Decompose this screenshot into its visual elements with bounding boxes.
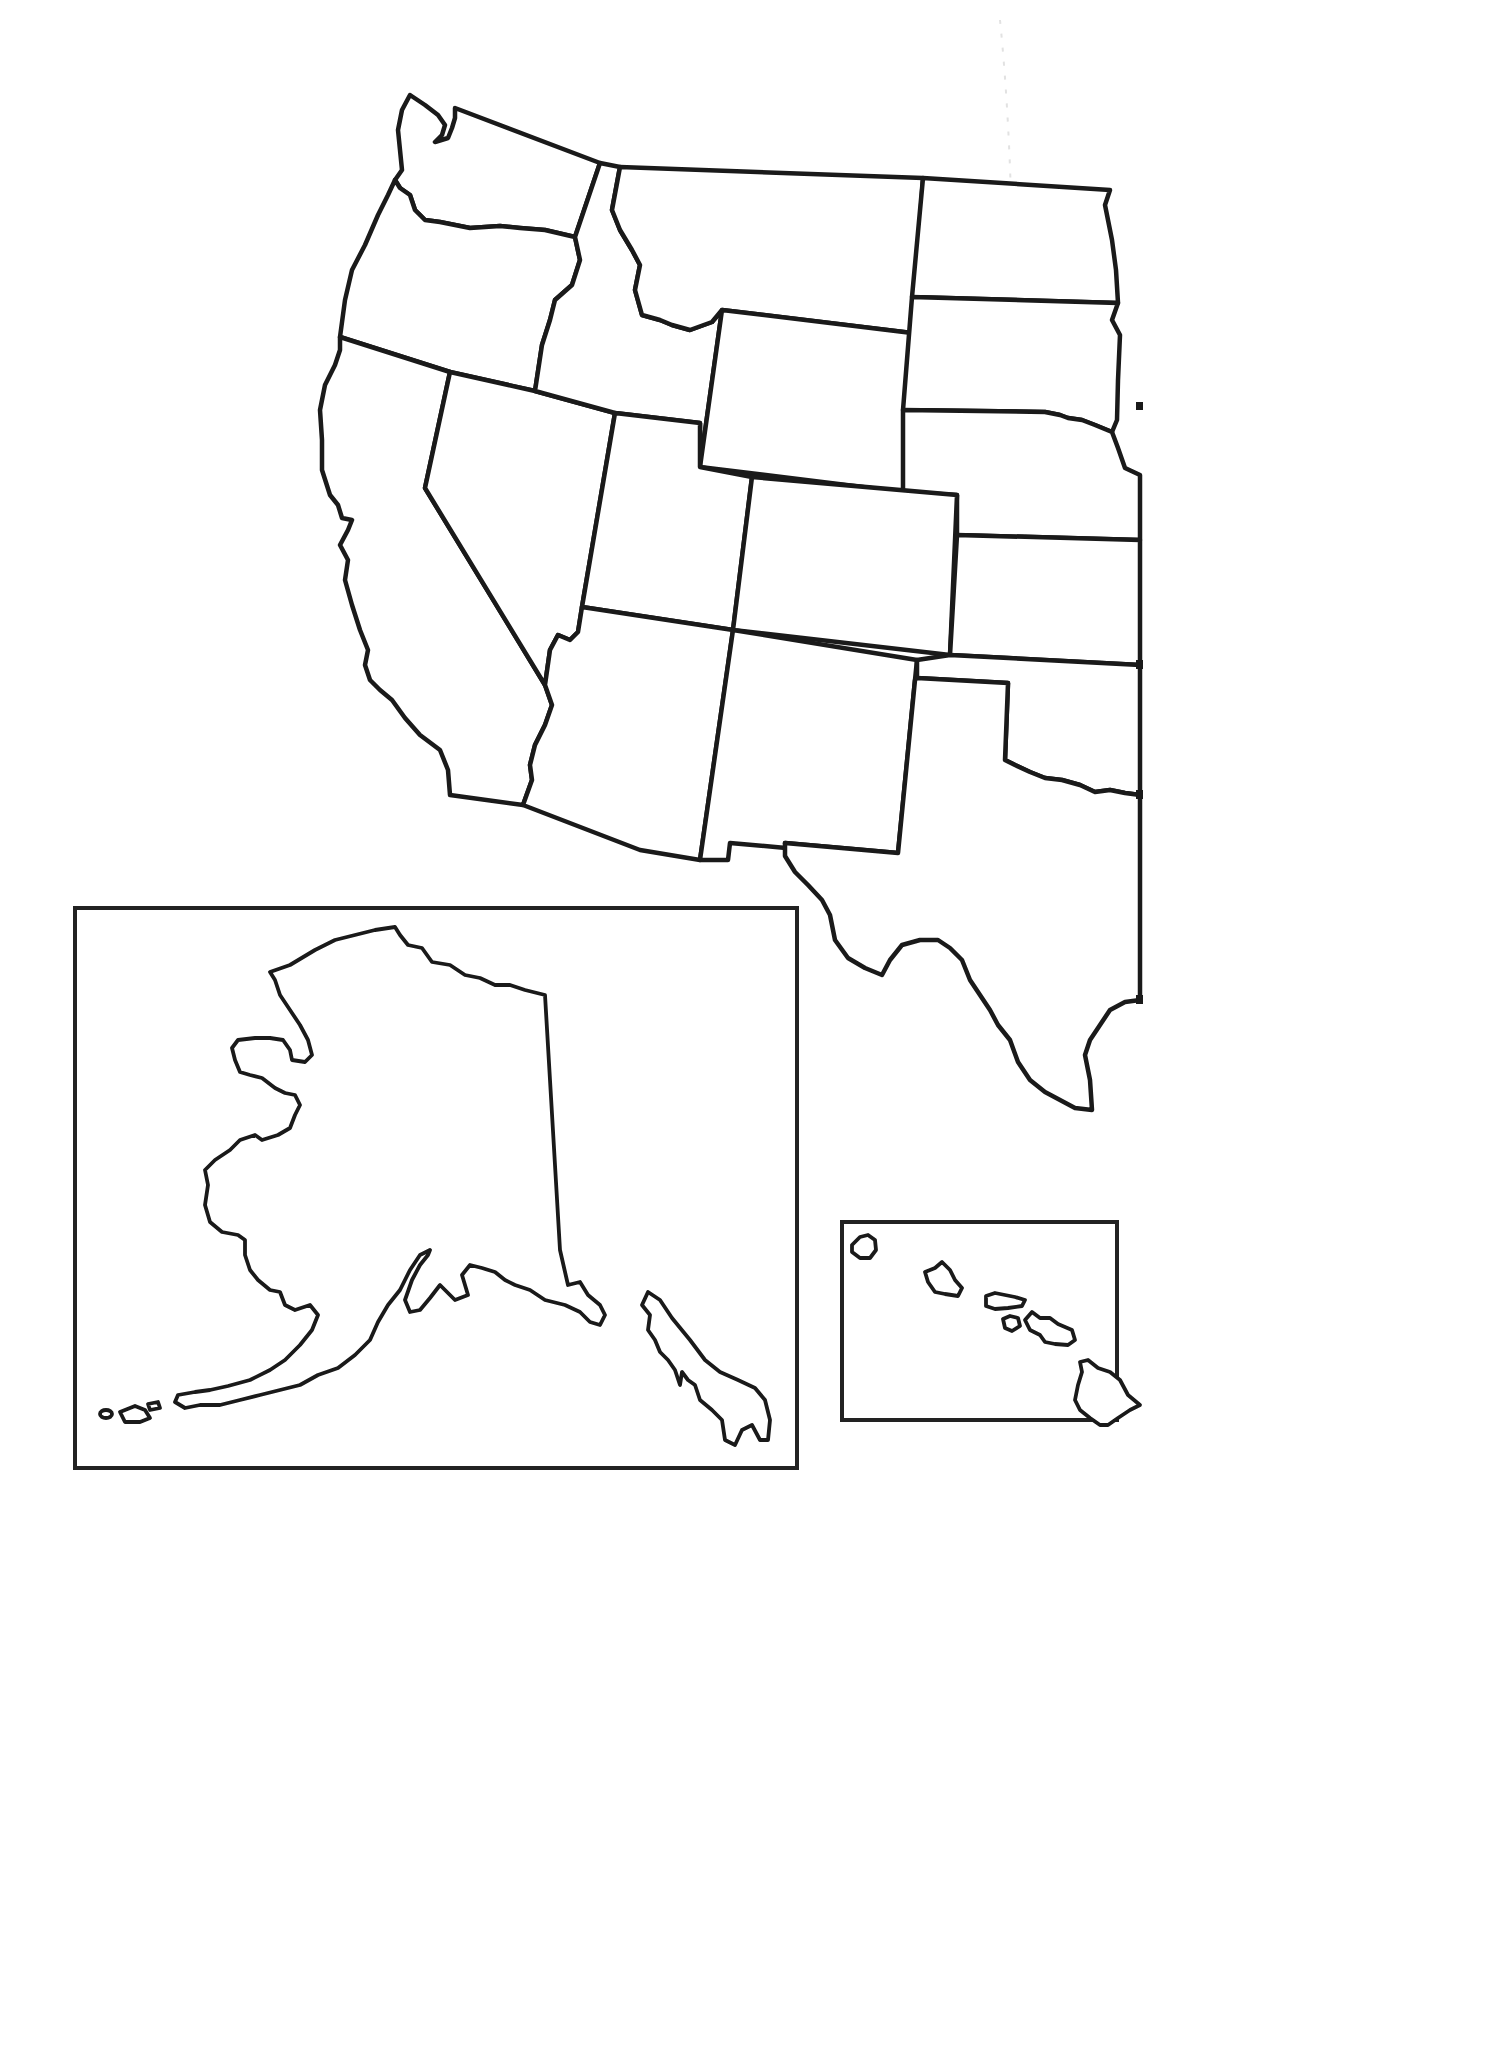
state-wyoming[interactable] — [700, 310, 912, 492]
outline-map — [0, 0, 1503, 2070]
hawaii-inset — [842, 1222, 1140, 1425]
alaska-island — [100, 1410, 112, 1418]
state-arizona[interactable] — [523, 607, 733, 860]
state-washington[interactable] — [395, 95, 600, 237]
island-oahu — [925, 1262, 962, 1296]
alaska-panhandle — [642, 1292, 770, 1445]
island-lanai — [1003, 1316, 1020, 1331]
state-new-mexico[interactable] — [700, 630, 917, 860]
edge-mark — [1136, 995, 1143, 1004]
island-molokai — [986, 1293, 1025, 1309]
edge-mark — [1136, 660, 1143, 669]
island-maui — [1025, 1312, 1075, 1345]
alaska-island — [120, 1406, 150, 1422]
state-colorado[interactable] — [733, 477, 957, 655]
edge-mark — [1136, 402, 1143, 410]
contiguous-us — [320, 95, 1143, 1110]
island-kauai — [852, 1235, 876, 1258]
state-kansas[interactable] — [950, 535, 1140, 665]
alaska-island — [148, 1402, 160, 1410]
state-north-dakota[interactable] — [912, 178, 1118, 303]
edge-mark — [1136, 790, 1143, 799]
island-hawaii — [1075, 1360, 1140, 1425]
state-montana[interactable] — [612, 167, 923, 333]
state-alaska[interactable] — [175, 927, 605, 1408]
alaska-inset — [75, 908, 797, 1468]
